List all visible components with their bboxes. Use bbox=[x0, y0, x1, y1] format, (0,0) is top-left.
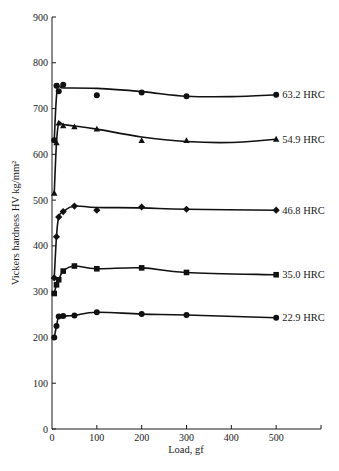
series-curve bbox=[54, 266, 276, 294]
circle-marker bbox=[53, 323, 59, 329]
y-tick-label: 500 bbox=[33, 195, 48, 206]
diamond-marker bbox=[55, 213, 62, 220]
x-tick-label: 500 bbox=[269, 432, 284, 443]
circle-marker bbox=[60, 82, 66, 88]
y-tick-label: 700 bbox=[33, 103, 48, 114]
y-axis: 0100200300400500600700800900 bbox=[33, 12, 56, 435]
series-label: 46.8 HRC bbox=[282, 205, 325, 216]
circle-marker bbox=[139, 311, 145, 317]
x-axis-title: Load, gf bbox=[168, 444, 204, 455]
square-marker bbox=[60, 268, 66, 274]
x-tick-label: 200 bbox=[134, 432, 149, 443]
circle-marker bbox=[273, 315, 279, 321]
series-22-9-hrc: 22.9 HRC bbox=[51, 309, 325, 340]
diamond-marker bbox=[273, 207, 280, 214]
y-tick-label: 200 bbox=[33, 332, 48, 343]
x-tick-label: 100 bbox=[89, 432, 104, 443]
x-axis: 0100200300400500 bbox=[50, 425, 322, 443]
y-tick-label: 300 bbox=[33, 286, 48, 297]
circle-marker bbox=[53, 83, 59, 89]
circle-marker bbox=[139, 90, 145, 96]
x-tick-label: 300 bbox=[179, 432, 194, 443]
square-marker bbox=[54, 282, 60, 288]
series-label: 35.0 HRC bbox=[282, 269, 325, 280]
y-tick-label: 800 bbox=[33, 57, 48, 68]
square-marker bbox=[184, 270, 190, 276]
y-tick-label: 0 bbox=[43, 424, 48, 435]
y-axis-title: Vickers hardness HV kg/mm² bbox=[10, 161, 21, 286]
circle-marker bbox=[184, 93, 190, 99]
diamond-marker bbox=[53, 233, 60, 240]
circle-marker bbox=[273, 92, 279, 98]
x-tick-label: 400 bbox=[224, 432, 239, 443]
square-marker bbox=[51, 291, 57, 297]
series-curve bbox=[54, 84, 276, 140]
circle-marker bbox=[184, 312, 190, 318]
triangle-marker bbox=[183, 137, 189, 143]
circle-marker bbox=[94, 309, 100, 315]
circle-marker bbox=[94, 92, 100, 98]
x-tick-label: 0 bbox=[50, 432, 55, 443]
square-marker bbox=[72, 263, 78, 269]
diamond-marker bbox=[71, 202, 78, 209]
triangle-marker bbox=[138, 137, 144, 143]
plot-area: 63.2 HRC54.9 HRC46.8 HRC35.0 HRC22.9 HRC bbox=[51, 82, 325, 341]
y-tick-label: 100 bbox=[33, 378, 48, 389]
diamond-marker bbox=[138, 203, 145, 210]
series-curve bbox=[54, 312, 276, 337]
square-marker bbox=[56, 277, 62, 283]
circle-marker bbox=[71, 312, 77, 318]
diamond-marker bbox=[183, 206, 190, 213]
series-label: 54.9 HRC bbox=[282, 134, 325, 145]
series-35-0-hrc: 35.0 HRC bbox=[51, 263, 324, 296]
y-tick-label: 900 bbox=[33, 12, 48, 23]
circle-marker bbox=[51, 334, 57, 340]
circle-marker bbox=[56, 88, 62, 94]
hardness-vs-load-chart: 0100200300400500600700800900 01002003004… bbox=[0, 0, 339, 471]
square-marker bbox=[139, 265, 145, 271]
series-curve bbox=[54, 122, 276, 193]
y-tick-label: 600 bbox=[33, 149, 48, 160]
y-tick-label: 400 bbox=[33, 240, 48, 251]
square-marker bbox=[273, 272, 279, 278]
square-marker bbox=[94, 266, 100, 272]
series-label: 63.2 HRC bbox=[282, 89, 325, 100]
series-label: 22.9 HRC bbox=[282, 312, 325, 323]
series-54-9-hrc: 54.9 HRC bbox=[51, 120, 325, 196]
circle-marker bbox=[60, 313, 66, 319]
